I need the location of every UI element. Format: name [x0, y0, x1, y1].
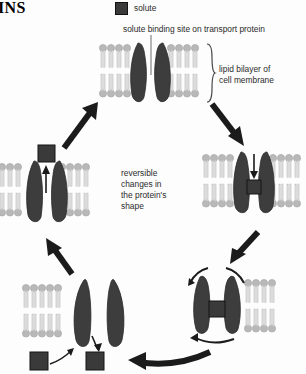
solute-bound: [209, 301, 225, 317]
stage-right-solute-bound: [203, 150, 305, 222]
release-arrow-left: [50, 348, 74, 364]
lipid-bilayer-left: [202, 154, 233, 207]
transport-protein-inverted: [74, 279, 124, 346]
lipid-bilayer-right: [244, 279, 275, 332]
cycle-arrow-lower-right: [222, 228, 272, 276]
center-note-line2: changes in: [121, 179, 162, 189]
solute-released: [38, 145, 55, 162]
lipid-bilayer-left: [22, 284, 61, 337]
stage-bottom-left-release: [24, 272, 140, 374]
cycle-arc-bottom: [190, 333, 234, 343]
cycle-arrow-upper-left: [58, 100, 108, 154]
stage-top-open-outward: [98, 43, 206, 105]
lipid-bilayer-right: [167, 44, 198, 97]
stage-left-empty-return: [0, 145, 100, 227]
cycle-arrow-lower-left: [36, 232, 88, 282]
page-title: INS: [0, 0, 26, 17]
center-note-line4: shape: [121, 201, 144, 211]
callout-bilayer-line2: cell membrane: [219, 75, 274, 85]
cycle-arrow-upper-right: [208, 100, 260, 154]
legend-solute-label: solute: [134, 3, 156, 13]
lipid-bilayer-left: [99, 44, 130, 97]
solute-released-left: [30, 352, 48, 370]
stage-bottom-right-inverted-bound: [186, 265, 306, 345]
callout-bilayer-line1: lipid bilayer of: [219, 64, 270, 74]
legend-solute-swatch: [115, 2, 128, 15]
lipid-bilayer-left: [0, 163, 22, 216]
bilayer-brace: [205, 43, 215, 103]
release-arrow-right: [92, 336, 102, 352]
cycle-arrow-bottom: [124, 346, 216, 372]
solute-exit-arrow: [42, 165, 50, 193]
solute-released-right: [86, 352, 104, 370]
center-note-line1: reversible: [121, 168, 157, 178]
solute-entry-arrow: [250, 154, 258, 179]
solute-bound: [247, 180, 261, 194]
center-note-line3: the protein's: [121, 190, 166, 200]
callout-binding-site: solute binding site on transport protein: [123, 24, 265, 34]
transport-protein: [131, 43, 171, 102]
